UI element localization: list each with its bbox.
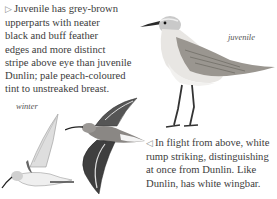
winter-caption: winter — [16, 101, 38, 111]
flight-description: ◁In flight from above, white rump striki… — [146, 136, 269, 190]
juvenile-caption: juvenile — [228, 32, 255, 42]
standing-bird-illustration — [140, 5, 277, 130]
left-pointer-icon: ◁ — [146, 138, 153, 148]
juvenile-description: ▷Juvenile has grey-brown upperparts with… — [5, 2, 132, 95]
above-flight-illustration — [65, 96, 150, 196]
right-pointer-icon: ▷ — [5, 4, 12, 14]
